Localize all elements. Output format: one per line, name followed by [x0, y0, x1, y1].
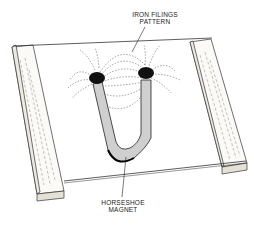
horseshoe-magnet — [93, 80, 151, 162]
horseshoe-magnet-label-line1: HORSESHOE — [93, 199, 153, 206]
iron-filings-label-line2: PATTERN — [125, 18, 185, 25]
field-lines — [68, 45, 180, 109]
right-wood-support — [190, 39, 247, 174]
horseshoe-magnet-label-line2: MAGNET — [93, 206, 153, 213]
iron-filings-label: IRON FILINGS PATTERN — [125, 11, 185, 25]
south-pole-filings — [138, 67, 154, 79]
horseshoe-magnet-label: HORSESHOE MAGNET — [93, 199, 153, 213]
magnetism-diagram — [0, 0, 254, 226]
iron-filings-label-line1: IRON FILINGS — [125, 11, 185, 18]
left-wood-support — [12, 45, 64, 201]
north-pole-filings — [89, 72, 105, 84]
